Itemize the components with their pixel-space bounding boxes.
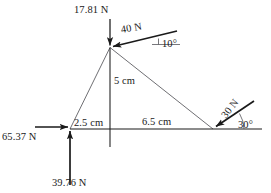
force-label-39-76: 39.76 N (52, 178, 87, 189)
force-label-17-81: 17.81 N (74, 5, 109, 16)
angle-label-30: 30° (238, 120, 253, 131)
dimension-label-6-5cm: 6.5 cm (142, 117, 171, 128)
force-diagram-canvas: 17.81 N 40 N 10° 30 N 30° 65.37 N 39.76 … (0, 0, 271, 193)
force-label-65-37: 65.37 N (2, 132, 37, 143)
dimension-label-5cm: 5 cm (114, 76, 135, 87)
dimension-label-2-5cm: 2.5 cm (74, 118, 103, 129)
angle-label-10: 10° (162, 39, 177, 50)
